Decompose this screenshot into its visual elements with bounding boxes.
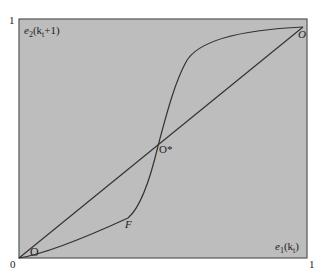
origin-point-label: O	[30, 245, 39, 259]
x-max-tick: 1	[309, 258, 315, 270]
kink-point-label: F	[124, 218, 132, 230]
upper-point-label: O	[298, 28, 306, 40]
diagram-figure: 1 0 1 e2(kt+1) e1(kt) O O* F O	[0, 0, 322, 277]
y-max-tick: 1	[9, 14, 15, 26]
origin-tick: 0	[10, 258, 16, 270]
fixed-point-label: O*	[159, 143, 172, 155]
